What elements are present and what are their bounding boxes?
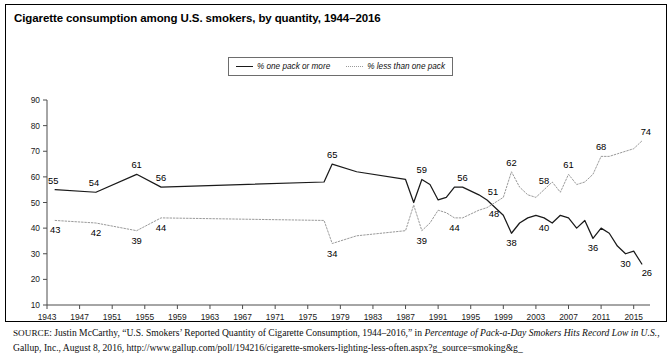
svg-text:70: 70 (31, 146, 41, 156)
source-text-part1: : Justin McCarthy, “U.S. Smokers’ Report… (49, 327, 424, 338)
svg-text:1987: 1987 (396, 312, 415, 322)
svg-text:59: 59 (417, 164, 427, 175)
svg-text:60: 60 (31, 172, 41, 182)
source-title-italic: Percentage of Pack-a-Day Smokers Hits Re… (424, 327, 657, 338)
svg-text:68: 68 (596, 141, 606, 152)
svg-text:1983: 1983 (364, 312, 383, 322)
svg-text:10: 10 (31, 300, 41, 310)
svg-text:44: 44 (156, 222, 166, 233)
svg-text:54: 54 (89, 177, 99, 188)
svg-text:62: 62 (506, 157, 516, 168)
svg-text:39: 39 (417, 235, 427, 246)
svg-text:80: 80 (31, 121, 41, 131)
svg-text:61: 61 (563, 159, 573, 170)
svg-text:44: 44 (449, 222, 459, 233)
svg-text:90: 90 (31, 95, 41, 105)
svg-text:1999: 1999 (494, 312, 513, 322)
svg-text:61: 61 (131, 159, 141, 170)
svg-text:30: 30 (620, 258, 630, 269)
svg-text:2007: 2007 (559, 312, 578, 322)
svg-text:56: 56 (457, 172, 467, 183)
svg-text:1955: 1955 (135, 312, 154, 322)
svg-text:1963: 1963 (201, 312, 220, 322)
svg-text:43: 43 (50, 224, 60, 235)
y-axis: 102030405060708090 (31, 95, 47, 310)
legend-entry-less-than-one-pack: % less than one pack (346, 62, 445, 71)
svg-text:36: 36 (588, 242, 598, 253)
svg-text:74: 74 (641, 126, 651, 137)
svg-text:34: 34 (327, 248, 337, 259)
svg-text:1995: 1995 (461, 312, 480, 322)
svg-text:30: 30 (31, 249, 41, 259)
svg-text:65: 65 (327, 149, 337, 160)
svg-text:1979: 1979 (331, 312, 350, 322)
svg-text:1975: 1975 (298, 312, 317, 322)
svg-text:56: 56 (156, 172, 166, 183)
svg-text:38: 38 (506, 237, 516, 248)
svg-text:58: 58 (539, 175, 549, 186)
svg-text:1947: 1947 (70, 312, 89, 322)
svg-text:2015: 2015 (624, 312, 643, 322)
svg-text:55: 55 (48, 175, 58, 186)
svg-text:20: 20 (31, 274, 41, 284)
data-point-labels: 5554615665595651384036302643423944343944… (48, 126, 652, 278)
legend-entry-one-pack-or-more: % one pack or more (236, 62, 330, 71)
svg-text:39: 39 (131, 235, 141, 246)
svg-text:1959: 1959 (168, 312, 187, 322)
legend-line-dotted-icon (346, 66, 363, 67)
svg-text:42: 42 (91, 227, 101, 238)
svg-text:51: 51 (488, 186, 498, 197)
svg-text:26: 26 (642, 267, 652, 278)
svg-text:1943: 1943 (38, 312, 57, 322)
legend-line-solid-icon (236, 66, 253, 67)
svg-text:2003: 2003 (527, 312, 546, 322)
source-note: SOURCE: Justin McCarthy, “U.S. Smokers’ … (13, 326, 663, 354)
svg-text:1967: 1967 (233, 312, 252, 322)
svg-text:1971: 1971 (266, 312, 285, 322)
svg-text:50: 50 (31, 198, 41, 208)
svg-text:40: 40 (539, 222, 549, 233)
source-prefix: SOURCE (13, 328, 49, 338)
svg-text:48: 48 (489, 208, 499, 219)
chart-figure: Cigarette consumption among U.S. smokers… (0, 0, 672, 360)
chart-legend: % one pack or more % less than one pack (228, 57, 453, 76)
svg-text:1951: 1951 (103, 312, 122, 322)
series-lines (55, 141, 642, 264)
chart-plot-area: 102030405060708090 194319471951195519591… (0, 0, 672, 360)
legend-label-one-pack-or-more: % one pack or more (257, 62, 330, 71)
x-axis: 1943194719511955195919631967197119751979… (38, 305, 650, 322)
svg-text:2011: 2011 (592, 312, 610, 322)
svg-text:1991: 1991 (429, 312, 448, 322)
svg-text:40: 40 (31, 223, 41, 233)
legend-label-less-than-one-pack: % less than one pack (367, 62, 445, 71)
